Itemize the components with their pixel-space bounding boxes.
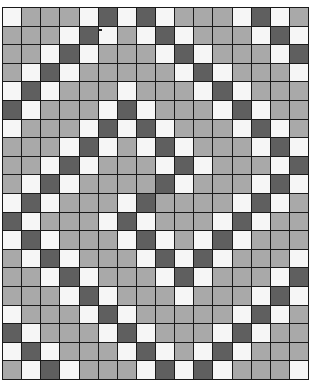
grid-cell-white[interactable] — [60, 250, 78, 268]
grid-cell-dark[interactable] — [3, 213, 21, 231]
grid-cell-gray[interactable] — [290, 194, 308, 212]
grid-cell-gray[interactable] — [22, 45, 40, 63]
grid-cell-gray[interactable] — [233, 27, 251, 45]
grid-cell-gray[interactable] — [22, 120, 40, 138]
grid-cell-white[interactable] — [118, 120, 136, 138]
grid-cell-gray[interactable] — [175, 324, 193, 342]
grid-cell-gray[interactable] — [118, 138, 136, 156]
grid-cell-white[interactable] — [290, 175, 308, 193]
grid-cell-white[interactable] — [60, 175, 78, 193]
grid-cell-gray[interactable] — [80, 101, 98, 119]
grid-cell-gray[interactable] — [3, 361, 21, 379]
grid-cell-white[interactable] — [60, 138, 78, 156]
grid-cell-dark[interactable] — [60, 157, 78, 175]
grid-cell-white[interactable] — [271, 194, 289, 212]
grid-cell-white[interactable] — [252, 324, 270, 342]
grid-cell-gray[interactable] — [80, 361, 98, 379]
grid-cell-white[interactable] — [137, 250, 155, 268]
grid-cell-dark[interactable] — [252, 8, 270, 26]
grid-cell-white[interactable] — [271, 120, 289, 138]
grid-cell-gray[interactable] — [118, 64, 136, 82]
grid-cell-gray[interactable] — [271, 213, 289, 231]
grid-cell-gray[interactable] — [22, 287, 40, 305]
grid-cell-white[interactable] — [22, 213, 40, 231]
grid-cell-white[interactable] — [3, 120, 21, 138]
grid-cell-white[interactable] — [41, 268, 59, 286]
grid-cell-white[interactable] — [137, 213, 155, 231]
grid-cell-dark[interactable] — [252, 194, 270, 212]
grid-cell-gray[interactable] — [271, 361, 289, 379]
grid-cell-gray[interactable] — [156, 101, 174, 119]
grid-cell-white[interactable] — [194, 45, 212, 63]
grid-cell-dark[interactable] — [156, 138, 174, 156]
grid-cell-gray[interactable] — [213, 138, 231, 156]
grid-cell-gray[interactable] — [271, 82, 289, 100]
grid-cell-white[interactable] — [137, 27, 155, 45]
grid-cell-gray[interactable] — [3, 64, 21, 82]
grid-cell-gray[interactable] — [290, 324, 308, 342]
grid-cell-gray[interactable] — [233, 45, 251, 63]
grid-cell-dark[interactable] — [3, 101, 21, 119]
grid-cell-gray[interactable] — [3, 45, 21, 63]
grid-cell-white[interactable] — [22, 64, 40, 82]
grid-cell-white[interactable] — [213, 250, 231, 268]
grid-cell-white[interactable] — [252, 138, 270, 156]
grid-cell-white[interactable] — [99, 213, 117, 231]
grid-cell-gray[interactable] — [80, 175, 98, 193]
grid-cell-white[interactable] — [175, 27, 193, 45]
grid-cell-dark[interactable] — [175, 268, 193, 286]
grid-cell-white[interactable] — [290, 138, 308, 156]
grid-cell-white[interactable] — [290, 287, 308, 305]
grid-cell-gray[interactable] — [175, 82, 193, 100]
grid-cell-dark[interactable] — [137, 194, 155, 212]
grid-cell-dark[interactable] — [60, 268, 78, 286]
grid-cell-white[interactable] — [290, 64, 308, 82]
grid-cell-white[interactable] — [3, 306, 21, 324]
grid-cell-dark[interactable] — [137, 343, 155, 361]
grid-cell-gray[interactable] — [233, 361, 251, 379]
grid-cell-white[interactable] — [233, 306, 251, 324]
grid-cell-white[interactable] — [194, 231, 212, 249]
grid-cell-gray[interactable] — [99, 194, 117, 212]
grid-cell-white[interactable] — [41, 82, 59, 100]
grid-cell-gray[interactable] — [252, 45, 270, 63]
grid-cell-gray[interactable] — [3, 138, 21, 156]
grid-cell-white[interactable] — [156, 120, 174, 138]
grid-cell-gray[interactable] — [233, 64, 251, 82]
grid-cell-white[interactable] — [213, 101, 231, 119]
grid-cell-gray[interactable] — [290, 101, 308, 119]
grid-cell-gray[interactable] — [99, 268, 117, 286]
grid-cell-dark[interactable] — [194, 64, 212, 82]
grid-cell-gray[interactable] — [80, 64, 98, 82]
grid-cell-dark[interactable] — [156, 250, 174, 268]
grid-cell-gray[interactable] — [175, 231, 193, 249]
grid-cell-gray[interactable] — [156, 64, 174, 82]
grid-cell-gray[interactable] — [60, 8, 78, 26]
grid-cell-white[interactable] — [137, 361, 155, 379]
grid-cell-dark[interactable] — [213, 343, 231, 361]
grid-cell-dark[interactable] — [156, 27, 174, 45]
grid-cell-gray[interactable] — [290, 82, 308, 100]
grid-cell-dark[interactable] — [99, 120, 117, 138]
grid-cell-dark[interactable] — [233, 213, 251, 231]
grid-cell-dark[interactable] — [118, 213, 136, 231]
grid-cell-white[interactable] — [118, 194, 136, 212]
grid-cell-dark[interactable] — [137, 8, 155, 26]
grid-cell-white[interactable] — [194, 268, 212, 286]
grid-cell-gray[interactable] — [60, 306, 78, 324]
grid-cell-gray[interactable] — [156, 194, 174, 212]
grid-cell-white[interactable] — [156, 8, 174, 26]
grid-cell-dark[interactable] — [99, 8, 117, 26]
grid-cell-white[interactable] — [252, 287, 270, 305]
grid-cell-gray[interactable] — [194, 306, 212, 324]
grid-cell-white[interactable] — [99, 101, 117, 119]
grid-cell-gray[interactable] — [213, 287, 231, 305]
grid-cell-gray[interactable] — [60, 343, 78, 361]
grid-cell-white[interactable] — [156, 343, 174, 361]
grid-cell-white[interactable] — [22, 324, 40, 342]
grid-cell-white[interactable] — [252, 101, 270, 119]
grid-cell-dark[interactable] — [41, 175, 59, 193]
grid-cell-white[interactable] — [80, 8, 98, 26]
grid-cell-white[interactable] — [3, 231, 21, 249]
grid-cell-dark[interactable] — [233, 101, 251, 119]
